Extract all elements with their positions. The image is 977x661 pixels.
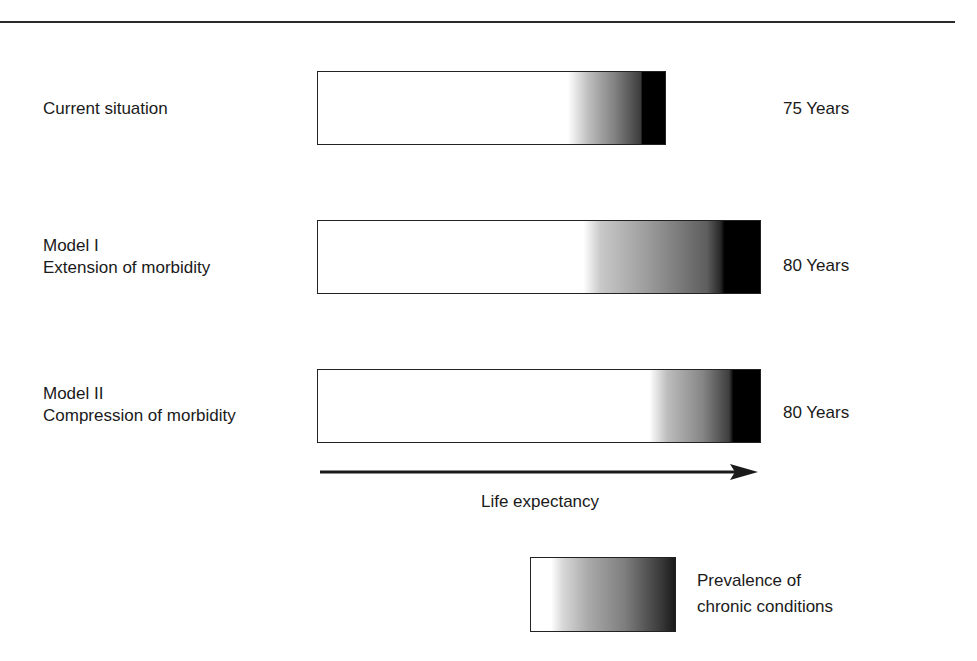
row-label-current-situation: Current situation [43,98,168,120]
legend-label-line: Prevalence of [697,568,833,594]
legend-gradient-swatch [530,557,676,632]
years-label-current-situation: 75 Years [783,98,849,120]
life-expectancy-arrow [320,462,760,482]
row-label-line: Model I [43,235,210,257]
legend-label: Prevalence of chronic conditions [697,568,833,620]
row-label-model-2: Model II Compression of morbidity [43,383,236,427]
row-label-line: Current situation [43,98,168,120]
row-label-model-1: Model I Extension of morbidity [43,235,210,279]
top-divider-rule [0,21,955,23]
bar-current-situation [317,71,666,145]
row-label-line: Compression of morbidity [43,405,236,427]
axis-label-life-expectancy: Life expectancy [440,491,640,513]
legend-label-line: chronic conditions [697,594,833,620]
row-label-line: Model II [43,383,236,405]
bar-model-1-extension [317,220,761,294]
row-label-line: Extension of morbidity [43,257,210,279]
years-label-model-1: 80 Years [783,255,849,277]
bar-model-2-compression [317,369,761,443]
years-label-model-2: 80 Years [783,402,849,424]
arrow-right-icon [320,462,760,482]
